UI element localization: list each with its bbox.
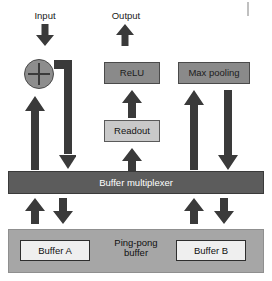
buffer-a-label: Buffer A bbox=[38, 246, 72, 256]
input-down-arrow bbox=[33, 24, 57, 48]
output-up-arrow bbox=[113, 24, 137, 48]
mux-left-up-arrow bbox=[24, 198, 46, 224]
relu-input-up-arrow bbox=[121, 90, 143, 118]
buffer-multiplexer-label: Buffer multiplexer bbox=[99, 178, 173, 188]
maxpool-input-up-arrow bbox=[182, 90, 206, 170]
plus-circle-icon bbox=[24, 59, 54, 89]
diagram-canvas: Input Output ReLU bbox=[0, 0, 272, 281]
max-pooling-node[interactable]: Max pooling bbox=[178, 62, 250, 84]
input-label: Input bbox=[21, 10, 69, 21]
buffer-a-node[interactable]: Buffer A bbox=[20, 240, 90, 261]
adder-output-elbow-down-arrow bbox=[54, 60, 76, 174]
relu-label: ReLU bbox=[120, 68, 144, 78]
max-pooling-label: Max pooling bbox=[188, 68, 239, 78]
output-label: Output bbox=[100, 10, 152, 21]
buffer-multiplexer-node[interactable]: Buffer multiplexer bbox=[8, 171, 264, 194]
page-edge-tick bbox=[247, 2, 249, 16]
readout-node[interactable]: Readout bbox=[104, 120, 160, 142]
relu-node[interactable]: ReLU bbox=[104, 62, 160, 84]
buffer-b-label: Buffer B bbox=[194, 246, 228, 256]
readout-label: Readout bbox=[114, 126, 150, 136]
buffer-b-node[interactable]: Buffer B bbox=[176, 240, 246, 261]
mux-left-down-arrow bbox=[52, 198, 74, 224]
adder-feed-up-arrow bbox=[24, 96, 46, 170]
mux-right-up-arrow bbox=[183, 198, 205, 224]
mux-right-down-arrow bbox=[213, 198, 235, 224]
ping-pong-buffer-label-line2: buffer bbox=[96, 248, 176, 258]
maxpool-output-down-arrow bbox=[216, 90, 240, 170]
ping-pong-buffer-label: Ping-pong buffer bbox=[96, 238, 176, 259]
